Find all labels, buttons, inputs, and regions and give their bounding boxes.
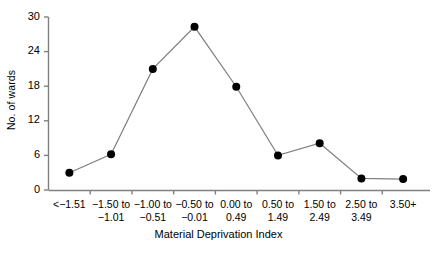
data-point-marker <box>191 23 199 31</box>
data-point-marker <box>357 174 365 182</box>
data-point-marker <box>149 65 157 73</box>
chart-figure: No. of wards 0612182430 <−1.51−1.50 to−1… <box>0 0 437 254</box>
data-point-marker <box>399 175 407 183</box>
chart-plot-area <box>0 0 437 254</box>
data-series-markers <box>65 23 407 183</box>
data-point-marker <box>316 139 324 147</box>
data-point-marker <box>65 169 73 177</box>
data-point-marker <box>107 150 115 158</box>
chart-axes <box>49 17 431 191</box>
data-series-line <box>69 27 403 179</box>
data-point-marker <box>274 151 282 159</box>
data-point-marker <box>232 83 240 91</box>
